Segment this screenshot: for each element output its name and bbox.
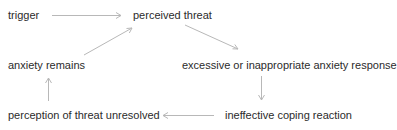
arrow-threat-unresolved-to-anxiety-remains [46,78,52,101]
arrow-ineffective-coping-to-threat-unresolved [163,113,214,119]
node-ineffective-coping: ineffective coping reaction [225,109,352,122]
node-perceived-threat: perceived threat [133,9,212,22]
arrow-perceived-threat-to-excessive-response [185,25,238,49]
node-anxiety-remains: anxiety remains [8,59,85,72]
arrow-anxiety-remains-to-perceived-threat [84,28,132,55]
arrow-trigger-to-perceived-threat [52,13,121,19]
node-excessive-response: excessive or inappropriate anxiety respo… [182,59,397,72]
node-threat-unresolved: perception of threat unresolved [8,109,160,122]
arrow-excessive-response-to-ineffective-coping [259,76,265,100]
node-trigger: trigger [8,9,39,22]
